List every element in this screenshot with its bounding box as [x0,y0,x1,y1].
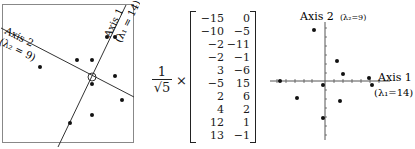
scores-scatter-panel: Axis 2 (λ₂=9) Axis 1 (λ₁=14) [262,0,415,149]
axis1-label: Axis 1 [377,71,412,84]
scalar-fraction: 1 √5 [152,64,172,96]
matrix-row: 3−6 [196,64,250,77]
matrix-row: 42 [196,103,250,116]
axis2-lambda: (λ₂=9) [340,13,366,22]
matrix-row: 13−1 [196,129,250,142]
fraction-numerator: 1 [152,64,172,80]
matrix-table: −150 −10−5 −2−11 −2−1 3−6 −515 26 42 121… [196,12,250,142]
matrix-row: −150 [196,12,250,25]
matrix-row: 26 [196,90,250,103]
axis1-lambda: (λ₁=14) [374,87,413,98]
matrix-row: −10−5 [196,25,250,38]
matrix-row: −2−1 [196,51,250,64]
score-matrix-block: 1 √5 × −150 −10−5 −2−11 −2−1 3−6 −515 26… [148,0,262,149]
matrix-row: −2−11 [196,38,250,51]
data-points [38,35,124,125]
matrix-row: 121 [196,116,250,129]
fraction-denominator: √5 [152,80,172,96]
times-symbol: × [176,73,187,88]
original-scatter-panel: Axis 2 (λ₂ = 9) Axis 1 (λ₁ = 14) [0,0,140,149]
axis2-label: Axis 2 [299,10,334,23]
data-points [278,28,374,120]
matrix-row: −515 [196,77,250,90]
right-bracket [250,11,256,143]
score-matrix: −150 −10−5 −2−11 −2−1 3−6 −515 26 42 121… [190,11,256,143]
